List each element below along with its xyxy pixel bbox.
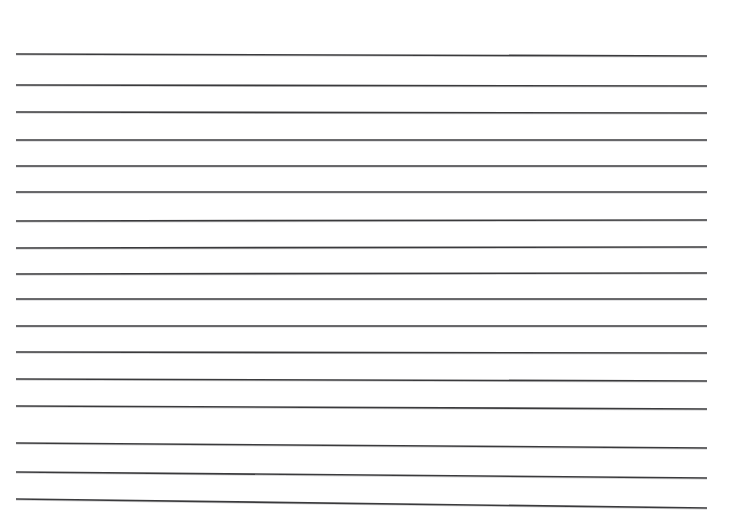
- rule-8: [16, 247, 707, 248]
- rule-16: [16, 472, 707, 478]
- rule-13: [16, 379, 707, 381]
- rule-2: [16, 85, 707, 86]
- scanned-page: [0, 0, 736, 530]
- rule-15: [16, 443, 707, 448]
- rule-17: [16, 499, 707, 508]
- rule-16-bleed: [16, 473, 707, 479]
- rule-17-bleed: [16, 500, 707, 509]
- rule-1: [16, 54, 707, 56]
- rule-9: [16, 273, 707, 274]
- rule-12: [16, 352, 707, 353]
- rule-3: [16, 112, 707, 113]
- ruled-lines-group: [0, 0, 736, 530]
- rule-line-set: [16, 54, 707, 509]
- rule-7: [16, 220, 707, 221]
